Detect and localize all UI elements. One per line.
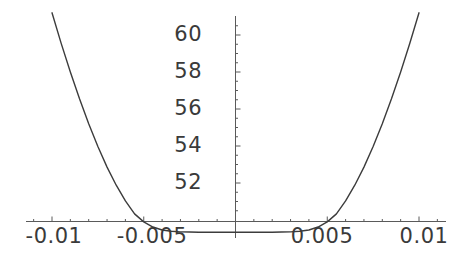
plot-figure: 60 58 56 54 52 -0.01 -0.005 0.005 0.01 <box>0 0 471 259</box>
vertical-axis-ticks <box>236 26 241 211</box>
y-tick-label-56: 56 <box>150 98 202 119</box>
x-tick-label-neg-0-01: -0.01 <box>8 226 100 247</box>
y-tick-label-60: 60 <box>150 24 202 45</box>
y-tick-label-54: 54 <box>150 135 202 156</box>
y-tick-label-52: 52 <box>150 172 202 193</box>
x-tick-label-0-005: 0.005 <box>266 226 378 247</box>
y-tick-label-58: 58 <box>150 61 202 82</box>
x-tick-label-0-01: 0.01 <box>382 226 466 247</box>
plot-canvas <box>0 0 471 259</box>
x-tick-label-neg-0-005: -0.005 <box>96 226 208 247</box>
